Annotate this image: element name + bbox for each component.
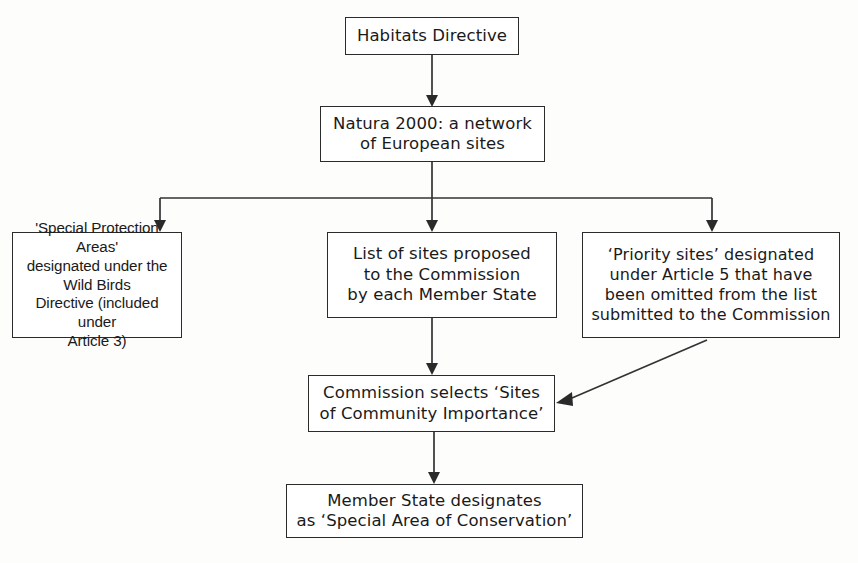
node-commission-selects-sites-of-community-importance: Commission selects ‘Sites of Community I… (308, 375, 555, 432)
node-list-of-sites: List of sites proposed to the Commission… (327, 232, 557, 318)
flowchart-canvas: Habitats Directive Natura 2000: a networ… (0, 0, 858, 563)
node-priority-sites: ‘Priority sites’ designated under Articl… (582, 232, 840, 338)
edge-branch-to-priority-sites (706, 198, 718, 232)
node-natura-2000: Natura 2000: a network of European sites (320, 106, 545, 162)
edge-priority-to-commission (556, 340, 707, 406)
edge-list-to-commission (426, 318, 438, 375)
edge-branch-to-list-of-sites (426, 198, 438, 232)
node-habitats-directive: Habitats Directive (345, 17, 519, 55)
node-special-protection-areas: 'Special Protection Areas' designated un… (12, 232, 182, 338)
node-member-state-designates-special-area-of-conservation: Member State designates as ‘Special Area… (286, 484, 583, 538)
edge-commission-to-member-state (428, 432, 440, 484)
edge-habitats-to-natura (426, 55, 438, 107)
